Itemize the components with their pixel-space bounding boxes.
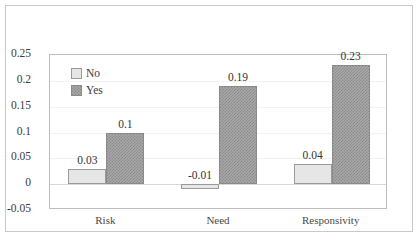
y-axis-tick-0: 0.25 [0, 48, 31, 60]
bar-risk-yes [106, 133, 144, 185]
y-axis-tick-5: 0 [0, 177, 31, 189]
x-axis-label-responsivity: Responsivity [302, 214, 359, 226]
y-axis-tick-1: 0.2 [0, 74, 31, 86]
legend-label-yes: Yes [86, 85, 103, 97]
legend-swatch-yes-icon [71, 85, 82, 96]
data-label-risk-no: 0.03 [77, 155, 97, 167]
y-axis-tick-6: -0.05 [0, 203, 31, 215]
bar-risk-no [68, 169, 106, 185]
plot-area: 0.030.1-0.010.190.040.23 No Yes [49, 54, 387, 209]
x-axis-label-need: Need [206, 214, 229, 226]
legend-swatch-no-icon [71, 68, 82, 79]
chart-legend: No Yes [71, 65, 135, 99]
legend-item-no: No [71, 65, 135, 82]
bar-responsivity-yes [332, 65, 370, 184]
bar-responsivity-no [294, 164, 332, 185]
data-label-responsivity-yes: 0.23 [341, 51, 361, 63]
x-axis-label-risk: Risk [95, 214, 115, 226]
chart-figure: 0.250.20.150.10.050-0.05 0.030.1-0.010.1… [5, 5, 413, 232]
legend-label-no: No [86, 68, 100, 80]
y-axis-tick-2: 0.15 [0, 100, 31, 112]
data-label-need-no: -0.01 [188, 170, 212, 182]
bar-need-yes [219, 86, 257, 184]
data-label-need-yes: 0.19 [228, 72, 248, 84]
y-axis-tick-4: 0.05 [0, 152, 31, 164]
data-label-risk-yes: 0.1 [118, 119, 132, 131]
data-label-responsivity-no: 0.04 [303, 150, 323, 162]
legend-item-yes: Yes [71, 82, 135, 99]
y-axis-tick-3: 0.1 [0, 126, 31, 138]
bar-need-no [181, 184, 219, 189]
